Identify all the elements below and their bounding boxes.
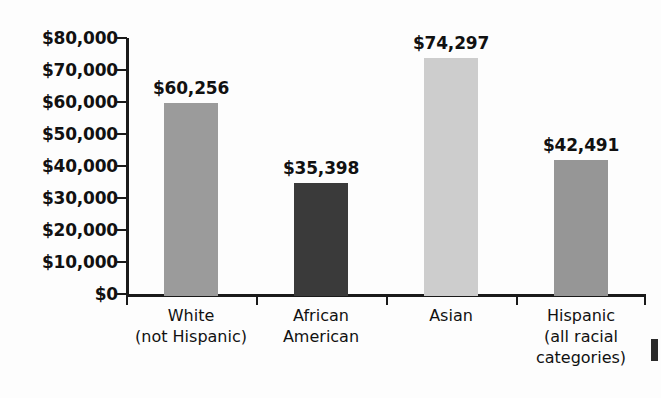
x-axis-tick-mark — [516, 294, 518, 305]
x-axis-category-label: Hispanic(all racialcategories) — [516, 305, 646, 368]
y-axis-tick-mark — [116, 261, 127, 263]
x-axis-tick-mark — [386, 294, 388, 305]
y-axis-tick-label: $80,000 — [0, 28, 118, 48]
bar-value-label: $35,398 — [283, 158, 359, 178]
category-label-line: (all racial — [516, 326, 646, 347]
x-axis-category-label: Asian — [386, 305, 516, 326]
category-label-line: African — [256, 305, 386, 326]
y-axis-tick-mark — [116, 229, 127, 231]
bar-chart: $0$10,000$20,000$30,000$40,000$50,000$60… — [0, 0, 661, 398]
bar — [164, 103, 218, 296]
x-axis-category-labels: White(not Hispanic)AfricanAmericanAsianH… — [126, 305, 646, 395]
y-axis-tick-mark — [116, 101, 127, 103]
y-axis-tick-label: $70,000 — [0, 60, 118, 80]
category-label-line: American — [256, 326, 386, 347]
y-axis-tick-mark — [116, 165, 127, 167]
y-axis-tick-mark — [116, 37, 127, 39]
bar-value-label: $42,491 — [543, 135, 619, 155]
y-axis-tick-label: $40,000 — [0, 156, 118, 176]
x-axis-tick-mark — [256, 294, 258, 305]
bar-group: $35,398 — [256, 38, 386, 296]
y-axis-tick-mark — [116, 133, 127, 135]
bar-value-label: $60,256 — [153, 78, 229, 98]
y-axis-tick-mark — [116, 197, 127, 199]
y-axis-tick-label: $0 — [0, 284, 118, 304]
bar-group: $60,256 — [126, 38, 256, 296]
y-axis-tick-label: $10,000 — [0, 252, 118, 272]
x-axis-tick-mark — [126, 294, 128, 305]
y-axis-tick-mark — [116, 69, 127, 71]
bar-group: $74,297 — [386, 38, 516, 296]
category-label-line: categories) — [516, 347, 646, 368]
bar-value-label: $74,297 — [413, 33, 489, 53]
bar — [294, 183, 348, 296]
y-axis-labels: $0$10,000$20,000$30,000$40,000$50,000$60… — [0, 0, 118, 398]
plot-area: $60,256$35,398$74,297$42,491 — [126, 38, 646, 296]
x-axis-category-label: AfricanAmerican — [256, 305, 386, 347]
category-label-line: Hispanic — [516, 305, 646, 326]
y-axis-tick-label: $50,000 — [0, 124, 118, 144]
category-label-line: (not Hispanic) — [126, 326, 256, 347]
category-label-line: Asian — [386, 305, 516, 326]
bar-group: $42,491 — [516, 38, 646, 296]
y-axis-tick-label: $30,000 — [0, 188, 118, 208]
page-edge-artifact — [651, 339, 658, 361]
category-label-line: White — [126, 305, 256, 326]
x-axis-category-label: White(not Hispanic) — [126, 305, 256, 347]
bar — [554, 160, 608, 296]
y-axis-tick-label: $60,000 — [0, 92, 118, 112]
x-axis-tick-mark — [644, 294, 646, 305]
bar — [424, 58, 478, 296]
y-axis-tick-label: $20,000 — [0, 220, 118, 240]
